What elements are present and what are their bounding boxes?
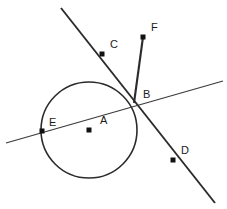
point-label-D: D [181,144,189,156]
point-marker-F [141,35,146,40]
point-marker-E [40,129,45,134]
segment-F-to-B [134,37,143,103]
geometry-canvas: A B C D E F [0,0,227,209]
point-label-F: F [151,21,158,33]
point-marker-D [171,158,176,163]
point-label-B: B [143,88,150,100]
point-marker-A [87,128,92,133]
point-marker-C [100,52,105,57]
point-label-E: E [49,116,56,128]
secant-line-through-E-and-B [6,81,223,143]
point-label-C: C [110,38,118,50]
geometry-figure: A B C D E F [0,0,227,209]
point-label-A: A [100,114,108,126]
